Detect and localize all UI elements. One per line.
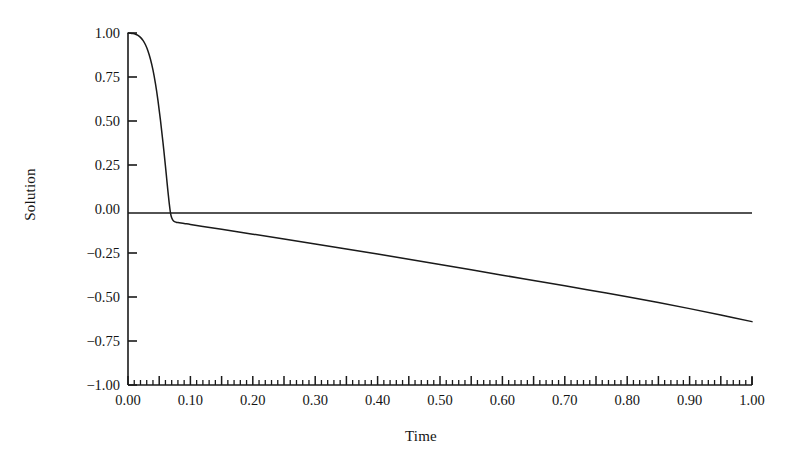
y-tick-label: −0.75 xyxy=(62,333,120,350)
y-axis-ticks xyxy=(128,33,137,385)
y-tick-label: 0.25 xyxy=(62,157,120,174)
x-axis-major-ticks xyxy=(128,376,752,385)
y-tick-label: −0.50 xyxy=(62,289,120,306)
x-tick-label: 0.80 xyxy=(615,392,640,409)
x-tick-label: 0.40 xyxy=(365,392,390,409)
y-tick-label: 0.75 xyxy=(62,69,120,86)
y-tick-label: 1.00 xyxy=(62,25,120,42)
y-tick-label: −1.00 xyxy=(62,377,120,394)
chart-figure: Solution Time 0.000.100.200.300.400.500.… xyxy=(0,0,798,466)
y-tick-label: 0.00 xyxy=(62,201,120,218)
x-tick-label: 1.00 xyxy=(739,392,764,409)
y-tick-label: 0.50 xyxy=(62,113,120,130)
solution-curve xyxy=(128,33,752,322)
x-axis-title: Time xyxy=(22,428,798,445)
x-tick-label: 0.20 xyxy=(240,392,265,409)
x-tick-label: 0.30 xyxy=(303,392,328,409)
y-axis-title: Solution xyxy=(22,155,39,235)
x-tick-label: 0.60 xyxy=(490,392,515,409)
x-tick-label: 0.10 xyxy=(178,392,203,409)
x-tick-label: 0.00 xyxy=(115,392,140,409)
x-tick-label: 0.90 xyxy=(677,392,702,409)
y-tick-label: −0.25 xyxy=(62,245,120,262)
x-tick-label: 0.50 xyxy=(427,392,452,409)
x-tick-label: 0.70 xyxy=(552,392,577,409)
